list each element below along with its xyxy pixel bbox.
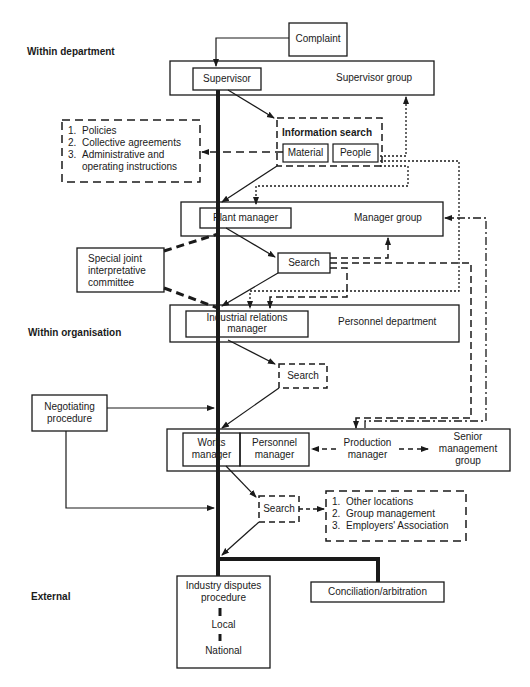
search-2-label: Search	[279, 370, 327, 382]
senior-management-group-label: Senior management group	[430, 431, 506, 467]
external-item: 3.Employers' Association	[332, 520, 449, 532]
policy-item: 1.Policies	[68, 125, 181, 137]
external-item: 1.Other locations	[332, 496, 449, 508]
external-list: 1.Other locations 2.Group management 3.E…	[332, 496, 449, 532]
section-external: External	[31, 591, 70, 602]
material-label: Material	[283, 147, 328, 159]
policy-item: operating instructions	[68, 161, 181, 173]
local-label: Local	[177, 619, 270, 631]
industrial-relations-manager-label: Industrial relations manager	[186, 312, 308, 334]
complaint-label: Complaint	[289, 33, 347, 45]
conciliation-label: Conciliation/arbitration	[311, 586, 444, 598]
industry-disputes-label: Industry disputes procedure	[177, 580, 270, 604]
complaint-arrow	[216, 38, 289, 66]
production-manager-label: Production manager	[336, 437, 399, 461]
special-committee-label: Special joint interpretative committee	[88, 253, 146, 289]
policy-item: 2.Collective agreements	[68, 137, 181, 149]
manager-group-label: Manager group	[354, 212, 422, 224]
works-manager-label: Works manager	[183, 437, 240, 461]
people-label: People	[333, 147, 378, 159]
personnel-department-label: Personnel department	[338, 316, 436, 328]
policies-list: 1.Policies 2.Collective agreements 3.Adm…	[68, 125, 181, 173]
policy-item: 3.Administrative and	[68, 149, 181, 161]
external-item: 2.Group management	[332, 508, 449, 520]
national-label: National	[177, 645, 270, 657]
section-within-organisation: Within organisation	[28, 327, 121, 338]
search-1-label: Search	[278, 257, 330, 269]
search-3-label: Search	[259, 503, 299, 515]
negotiating-procedure-label: Negotiating procedure	[32, 401, 107, 425]
supervisor-group-label: Supervisor group	[336, 72, 412, 84]
section-within-department: Within department	[27, 46, 115, 57]
information-search-label: Information search	[282, 127, 372, 139]
plant-manager-label: Plant manager	[200, 212, 291, 224]
personnel-manager-label: Personnel manager	[240, 437, 309, 461]
supervisor-label: Supervisor	[193, 73, 261, 85]
